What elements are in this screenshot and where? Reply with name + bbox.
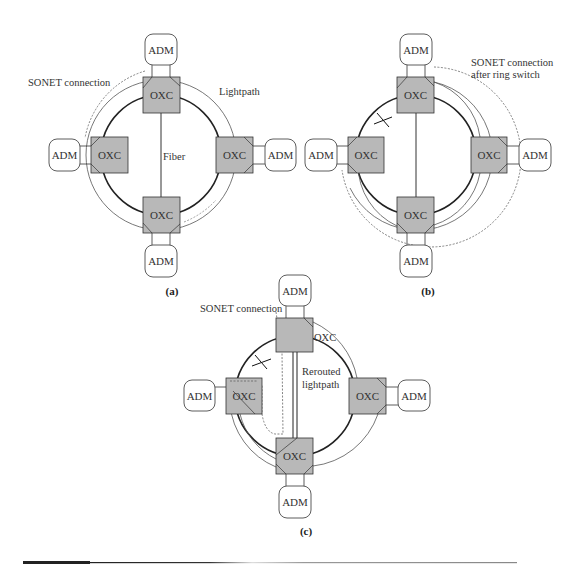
adm-right-c: ADM: [398, 380, 430, 411]
panel-c: OXC OXC OXC ADM ADM ADM AD: [184, 275, 430, 538]
oxc-top-b: OXC: [397, 77, 434, 113]
caption-c: (c): [300, 525, 313, 538]
svg-text:OXC: OXC: [477, 149, 500, 161]
svg-text:OXC: OXC: [150, 209, 173, 221]
lightpath-inner: [434, 82, 480, 137]
svg-text:OXC: OXC: [356, 390, 379, 402]
adm-left-b: ADM: [305, 139, 337, 171]
adm-right-b: ADM: [519, 139, 551, 171]
sonet-connection-label: SONET connection: [28, 77, 111, 88]
svg-text:OXC: OXC: [283, 450, 306, 462]
sonet-switch-label-line2: after ring switch: [471, 69, 541, 80]
oxc-bottom-b: OXC: [397, 197, 434, 233]
svg-text:ADM: ADM: [403, 255, 429, 267]
oxc-top-a: OXC: [143, 77, 180, 113]
svg-text:ADM: ADM: [282, 496, 308, 508]
svg-text:ADM: ADM: [403, 44, 429, 56]
sonet-connection-label: SONET connection: [200, 303, 283, 314]
optical-ring-figure: OXC OXC OXC OXC ADM ADM: [0, 0, 580, 565]
svg-text:OXC: OXC: [354, 149, 377, 161]
oxc-top-c: [276, 318, 313, 352]
adm-right-a: ADM: [265, 139, 296, 171]
svg-text:ADM: ADM: [401, 390, 427, 402]
adm-bottom-a: ADM: [145, 245, 177, 277]
panel-b: OXC OXC OXC OXC ADM ADM: [305, 34, 554, 298]
oxc-bottom-c: OXC: [276, 438, 313, 474]
adm-bottom-b: ADM: [400, 245, 432, 277]
lightpath-label: Lightpath: [219, 86, 261, 97]
oxc-right-a: OXC: [216, 137, 253, 173]
svg-text:OXC: OXC: [232, 390, 255, 402]
svg-text:OXC: OXC: [223, 149, 246, 161]
rerouted-lightpath-label-line2: lightpath: [302, 379, 340, 390]
lightpath-left-inner: [240, 414, 276, 459]
adm-top-a: ADM: [145, 34, 177, 65]
svg-text:ADM: ADM: [308, 149, 334, 161]
panel-a: OXC OXC OXC OXC ADM ADM: [28, 34, 296, 298]
svg-text:OXC: OXC: [404, 209, 427, 221]
oxc-right-b: OXC: [471, 137, 507, 173]
svg-text:ADM: ADM: [148, 255, 174, 267]
oxc-bottom-a: OXC: [143, 197, 180, 233]
svg-text:ADM: ADM: [282, 285, 308, 297]
adm-left-a: ADM: [49, 139, 80, 171]
oxc-right-c: OXC: [349, 378, 386, 414]
oxc-left-c: OXC: [226, 378, 262, 414]
svg-text:ADM: ADM: [522, 149, 548, 161]
svg-text:ADM: ADM: [187, 390, 213, 402]
fiber-label: Fiber: [163, 151, 186, 162]
rerouted-lightpath-label-line1: Rerouted: [302, 366, 341, 377]
adm-top-c: ADM: [279, 275, 311, 306]
svg-text:ADM: ADM: [52, 149, 78, 161]
lightpath-right-lower: [313, 414, 378, 466]
oxc-top-label: OXC: [314, 332, 336, 343]
svg-text:ADM: ADM: [148, 44, 174, 56]
svg-text:OXC: OXC: [98, 149, 121, 161]
oxc-left-a: OXC: [91, 137, 128, 173]
sonet-switch-label-line1: SONET connection: [471, 57, 554, 68]
svg-text:ADM: ADM: [268, 149, 294, 161]
fiber-cut-mark: [374, 113, 392, 127]
bottom-rule: [23, 561, 517, 564]
adm-top-b: ADM: [400, 34, 432, 65]
svg-text:OXC: OXC: [404, 89, 427, 101]
caption-b: (b): [421, 285, 435, 298]
caption-a: (a): [166, 285, 179, 298]
adm-bottom-c: ADM: [279, 486, 311, 518]
oxc-left-b: OXC: [348, 137, 384, 173]
adm-left-c: ADM: [184, 380, 215, 411]
fiber-cut-mark: [252, 355, 271, 369]
svg-text:OXC: OXC: [150, 89, 173, 101]
